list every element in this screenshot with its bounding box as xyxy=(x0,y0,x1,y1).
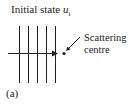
centre-label: centre xyxy=(84,44,110,55)
wavefronts xyxy=(20,26,56,83)
figure-caption: (a) xyxy=(6,87,18,99)
scattering-diagram xyxy=(0,0,132,104)
scattering-centre-dot xyxy=(62,52,65,55)
pointer-arrow xyxy=(66,37,80,51)
incident-arrow xyxy=(8,51,58,57)
scattering-label: Scattering xyxy=(84,32,127,43)
